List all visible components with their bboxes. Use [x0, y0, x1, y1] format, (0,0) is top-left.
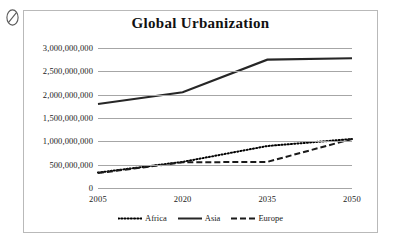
y-axis-tick-label: 2,500,000,000 [43, 66, 93, 76]
legend-item-africa[interactable]: Africa [118, 213, 167, 223]
x-axis-tick-label: 2020 [174, 194, 192, 204]
chart-title: Global Urbanization [24, 15, 377, 32]
x-axis-tick-label: 2035 [258, 194, 276, 204]
legend-item-europe[interactable]: Europe [231, 213, 283, 223]
y-axis-tick-label: 1,000,000,000 [43, 136, 93, 146]
x-axis-tick-label: 2050 [343, 194, 361, 204]
y-axis-tick-label: 500,000,000 [49, 160, 93, 170]
gridline-2500000000 [98, 71, 352, 72]
legend-swatch-asia-icon [178, 215, 202, 222]
series-line-europe [98, 139, 352, 173]
null-slash-icon [5, 8, 20, 27]
y-axis-tick-label: 0 [89, 183, 93, 193]
y-axis-tick-label: 1,500,000,000 [43, 113, 93, 123]
gridline-3000000000 [98, 48, 352, 49]
chart-legend: AfricaAsiaEurope [23, 213, 378, 223]
gridline-1000000000 [98, 141, 352, 142]
legend-label: Europe [258, 213, 283, 223]
legend-item-asia[interactable]: Asia [178, 213, 221, 223]
gridline-2000000000 [98, 95, 352, 96]
x-axis-tick-label: 2005 [89, 194, 107, 204]
gridline-1500000000 [98, 118, 352, 119]
legend-swatch-europe-icon [231, 215, 255, 222]
legend-label: Africa [145, 213, 167, 223]
y-axis-tick-label: 2,000,000,000 [43, 90, 93, 100]
gridline-500000000 [98, 165, 352, 166]
gridline-0 [98, 188, 352, 189]
y-axis-tick-label: 3,000,000,000 [43, 43, 93, 53]
series-line-asia [98, 58, 352, 104]
plot-area: 0500,000,0001,000,000,0001,500,000,0002,… [98, 48, 352, 188]
legend-label: Asia [205, 213, 221, 223]
legend-swatch-africa-icon [118, 215, 142, 222]
